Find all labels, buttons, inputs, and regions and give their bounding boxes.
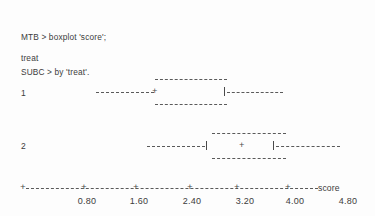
axis-tick-1: + (133, 183, 139, 193)
axis-tick-label-5: 4.80 (339, 196, 357, 206)
axis-tick-origin: + (20, 183, 26, 193)
group-label-2: 2 (21, 141, 26, 151)
whisker-left-1 (96, 92, 154, 93)
whisker-left-2 (147, 146, 205, 147)
whisker-right-1 (227, 92, 283, 93)
whisker-right-2 (276, 146, 340, 147)
hinge-right-1 (224, 87, 225, 96)
axis-tick-label-3: 3.20 (236, 196, 254, 206)
median-marker-1: + (152, 88, 157, 97)
axis-tick-label-2: 2.40 (183, 196, 201, 206)
box-top-line-1 (155, 79, 227, 80)
box-bottom-line-2 (212, 158, 286, 159)
hinge-left-2 (206, 141, 207, 150)
axis-tick-label-4: 4.00 (286, 196, 304, 206)
hinge-right-2 (273, 141, 274, 150)
median-marker-2: + (239, 142, 244, 151)
value-axis-title: score (318, 183, 340, 193)
minitab-session-window: MTB > boxplot 'score'; SUBC > by 'treat'… (0, 0, 375, 216)
axis-tick-3: + (234, 183, 240, 193)
axis-tick-2: + (187, 183, 193, 193)
value-axis-line (26, 188, 318, 189)
axis-tick-label-0: 0.80 (78, 196, 96, 206)
axis-tick-label-1: 1.60 (130, 196, 148, 206)
boxplot-chart: treat 1 + 2 + + + + + (0, 0, 375, 216)
box-bottom-line-1 (155, 104, 227, 105)
axis-tick-0: + (81, 183, 87, 193)
box-top-line-2 (212, 133, 286, 134)
group-axis-title: treat (21, 53, 38, 63)
group-label-1: 1 (21, 88, 26, 98)
axis-tick-4: + (285, 183, 291, 193)
